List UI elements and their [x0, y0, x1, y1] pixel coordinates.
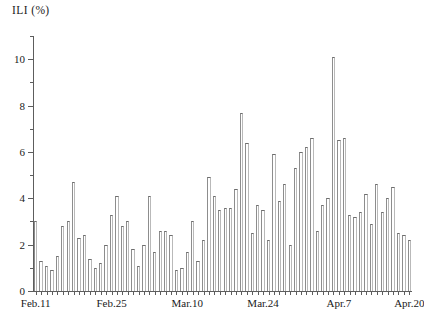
x-tick [79, 291, 80, 295]
bar [159, 231, 162, 291]
x-tick [220, 291, 221, 295]
bar [245, 143, 248, 291]
x-tick [166, 291, 167, 295]
bar [326, 198, 329, 291]
x-tick [144, 291, 145, 295]
bar [278, 201, 281, 291]
x-tick-label: Apr.20 [394, 298, 424, 309]
x-tick [323, 291, 324, 295]
x-tick [204, 291, 205, 295]
y-tick-label: 0 [20, 286, 26, 297]
x-tick [231, 291, 232, 295]
x-tick [193, 291, 194, 295]
bar [99, 263, 102, 291]
x-tick [133, 291, 134, 295]
y-tick-label: 2 [20, 239, 26, 250]
x-tick [198, 291, 199, 295]
bar [261, 210, 264, 291]
bar [169, 235, 172, 291]
bar [294, 168, 297, 291]
bar [148, 196, 151, 291]
x-tick [306, 291, 307, 295]
bar [359, 212, 362, 291]
y-tick-major [28, 245, 33, 246]
x-tick [171, 291, 172, 295]
x-tick [187, 291, 188, 295]
bar [224, 208, 227, 291]
x-tick [371, 291, 372, 295]
x-tick [122, 291, 123, 295]
bar [45, 266, 48, 292]
bar [310, 138, 313, 291]
x-tick [279, 291, 280, 295]
x-tick-label: Feb.11 [21, 298, 51, 309]
y-tick-label: 6 [20, 146, 26, 157]
bar [164, 231, 167, 291]
bar [207, 177, 210, 291]
x-tick-label: Feb.25 [96, 298, 126, 309]
x-tick [209, 291, 210, 295]
bar [137, 266, 140, 292]
x-tick [95, 291, 96, 295]
x-tick [63, 291, 64, 295]
x-tick [74, 291, 75, 295]
bar [267, 240, 270, 291]
x-tick [404, 291, 405, 295]
y-tick-major [28, 198, 33, 199]
bar [370, 224, 373, 291]
x-tick [274, 291, 275, 295]
bar [348, 215, 351, 292]
bar [142, 245, 145, 291]
bar [218, 210, 221, 291]
bar [83, 235, 86, 291]
x-tick [252, 291, 253, 295]
chart-title: ILI (%) [12, 4, 50, 16]
x-tick [361, 291, 362, 295]
bar [343, 138, 346, 291]
y-tick-major [28, 59, 33, 60]
x-tick [258, 291, 259, 295]
bar [337, 140, 340, 291]
bar [180, 268, 183, 291]
y-tick-major [28, 106, 33, 107]
bar [234, 189, 237, 291]
x-tick [290, 291, 291, 295]
y-tick-major [28, 291, 33, 292]
x-tick [52, 291, 53, 295]
bar [67, 221, 70, 291]
bar [94, 268, 97, 291]
x-tick [328, 291, 329, 295]
x-tick [155, 291, 156, 295]
x-tick [355, 291, 356, 295]
bar [186, 252, 189, 291]
x-tick [57, 291, 58, 295]
bar [386, 198, 389, 291]
bar [332, 57, 335, 291]
x-tick [139, 291, 140, 295]
y-tick-label: 4 [20, 193, 26, 204]
x-tick [285, 291, 286, 295]
x-tick [263, 291, 264, 295]
bar [56, 256, 59, 291]
y-tick-major [28, 152, 33, 153]
y-tick-minor [30, 221, 33, 222]
x-tick [350, 291, 351, 295]
x-tick [344, 291, 345, 295]
bar [364, 194, 367, 291]
x-tick [382, 291, 383, 295]
x-tick [398, 291, 399, 295]
bar [391, 187, 394, 291]
x-tick [247, 291, 248, 295]
bar [375, 184, 378, 291]
bar [229, 208, 232, 291]
bar [240, 113, 243, 292]
bar [196, 261, 199, 291]
x-tick [90, 291, 91, 295]
x-tick [409, 291, 410, 295]
bar [115, 196, 118, 291]
bar [104, 245, 107, 291]
x-tick-label: Mar.10 [172, 298, 203, 309]
x-tick [41, 291, 42, 295]
bar [289, 245, 292, 291]
